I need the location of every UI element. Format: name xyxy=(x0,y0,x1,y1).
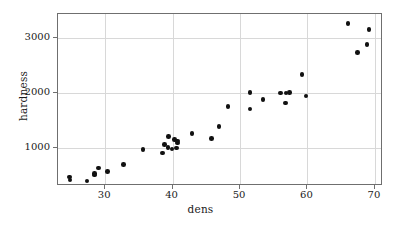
x-axis-label: dens xyxy=(0,203,401,215)
plot-area xyxy=(57,13,382,185)
gridline-vertical xyxy=(173,14,174,184)
data-point xyxy=(217,124,222,129)
data-point xyxy=(190,131,195,136)
data-point xyxy=(85,179,90,184)
x-tick-label: 60 xyxy=(300,189,313,201)
x-tick-label: 50 xyxy=(233,189,246,201)
data-point xyxy=(261,97,266,102)
y-tick-mark xyxy=(53,37,57,38)
data-point xyxy=(287,90,292,95)
data-point xyxy=(355,50,360,55)
x-tick-label: 40 xyxy=(165,189,178,201)
data-point xyxy=(226,104,231,109)
y-tick-label: 1000 xyxy=(25,141,50,153)
data-point xyxy=(121,162,126,167)
x-tick-label: 30 xyxy=(98,189,111,201)
data-point xyxy=(300,72,305,77)
data-point xyxy=(92,171,97,176)
data-point xyxy=(248,90,253,95)
data-point xyxy=(283,101,288,106)
x-tick-label: 70 xyxy=(368,189,381,201)
gridline-horizontal xyxy=(58,93,381,94)
data-point xyxy=(367,27,372,32)
data-point xyxy=(278,91,283,96)
y-tick-label: 3000 xyxy=(25,31,50,43)
data-point xyxy=(141,147,146,152)
data-point xyxy=(346,21,351,26)
gridline-horizontal xyxy=(58,38,381,39)
gridline-vertical xyxy=(375,14,376,184)
gridline-horizontal xyxy=(58,148,381,149)
data-point xyxy=(160,151,165,156)
y-axis-label: hardness xyxy=(17,56,29,136)
y-tick-mark xyxy=(53,147,57,148)
data-point xyxy=(248,107,253,112)
scatter-plot-figure: 3040506070 100020003000 dens hardness xyxy=(0,0,401,226)
y-tick-mark xyxy=(53,92,57,93)
data-point xyxy=(105,169,110,174)
data-point xyxy=(174,146,179,151)
gridline-vertical xyxy=(240,14,241,184)
gridline-vertical xyxy=(307,14,308,184)
gridline-vertical xyxy=(105,14,106,184)
data-point xyxy=(365,42,370,47)
data-point xyxy=(68,178,73,183)
data-point xyxy=(209,136,214,141)
data-point xyxy=(166,134,171,139)
data-point xyxy=(96,166,101,171)
